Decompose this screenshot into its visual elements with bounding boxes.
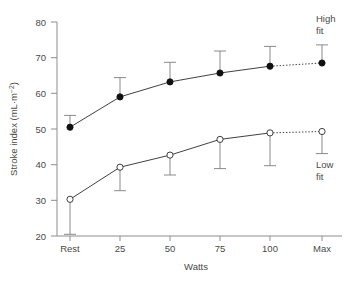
x-tick-label-75: 75: [215, 243, 226, 254]
y-axis-title-main: Stroke index (mL·m: [8, 93, 19, 176]
y-tick-label-50: 50: [35, 124, 46, 135]
high-fit-point-100: [267, 63, 273, 69]
x-tick-label-max: Max: [313, 243, 331, 254]
x-tick-label-25: 25: [115, 243, 126, 254]
high-fit-point-75: [217, 70, 223, 76]
y-axis-title: Stroke index (mL·m−2): [8, 82, 19, 176]
x-axis-title: Watts: [184, 261, 208, 272]
y-tick-label-70: 70: [35, 52, 46, 63]
high-fit-point-25: [117, 94, 123, 100]
x-tick-label-100: 100: [262, 243, 278, 254]
high-fit-point-rest: [67, 124, 73, 130]
x-tick-label-rest: Rest: [60, 243, 80, 254]
y-tick-label-60: 60: [35, 88, 46, 99]
stroke-index-line-chart: 80 70 60 50 40 30 20 Rest 25 50 75 100 M…: [0, 0, 359, 282]
y-axis-title-tail: ): [8, 82, 19, 85]
low-fit-point-rest: [67, 196, 73, 202]
low-fit-point-100: [267, 130, 273, 136]
legend-high-fit-line2: fit: [316, 25, 324, 36]
chart-background: [0, 0, 359, 282]
low-fit-point-max: [319, 128, 325, 134]
y-tick-label-20: 20: [35, 231, 46, 242]
high-fit-point-50: [167, 79, 173, 85]
legend-low-fit-line2: fit: [316, 171, 324, 182]
low-fit-point-50: [167, 152, 173, 158]
y-tick-label-30: 30: [35, 195, 46, 206]
high-fit-point-max: [319, 60, 325, 66]
chart-figure: 80 70 60 50 40 30 20 Rest 25 50 75 100 M…: [0, 0, 359, 282]
low-fit-point-25: [117, 164, 123, 170]
y-tick-label-80: 80: [35, 17, 46, 28]
x-tick-label-50: 50: [165, 243, 176, 254]
legend-high-fit-line1: High: [316, 13, 336, 24]
low-fit-point-75: [217, 136, 223, 142]
legend-low-fit-line1: Low: [316, 159, 334, 170]
y-tick-label-40: 40: [35, 159, 46, 170]
